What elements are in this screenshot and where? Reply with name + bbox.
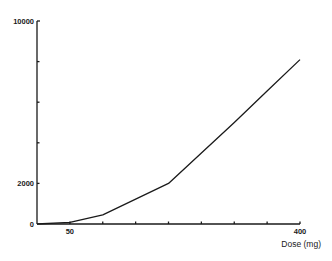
y-axis: 1000020000: [13, 17, 40, 229]
x-tick-label: 400: [294, 227, 307, 236]
dose-response-chart: 1000020000 50400 Dose (mg): [0, 0, 332, 261]
y-tick-label: 10000: [13, 17, 34, 26]
data-line: [37, 60, 300, 224]
y-tick-label: 0: [30, 220, 34, 229]
x-axis-title: Dose (mg): [281, 239, 321, 249]
x-tick-label: 50: [66, 227, 74, 236]
y-tick-label: 2000: [17, 179, 34, 188]
plot-area: [37, 60, 300, 224]
x-axis: 50400: [37, 222, 306, 237]
